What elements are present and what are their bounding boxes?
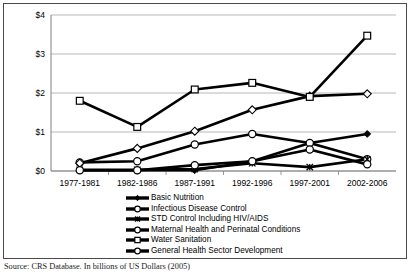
- legend-label: Water Sanitation: [150, 235, 211, 245]
- legend-label: Infectious Disease Control: [150, 204, 247, 214]
- legend-marker-asterisk-icon: [125, 214, 150, 224]
- chart-legend: Basic Nutrition Infectious Disease Contr…: [125, 193, 395, 256]
- x-axis-tick-label: 1992-1996: [232, 178, 273, 188]
- markers-maternal-health-and-perinatal-conditions: [76, 90, 372, 167]
- data-point-marker: [134, 124, 141, 131]
- legend-marker-open-circle-icon: [125, 225, 150, 235]
- legend-marker-open-square-icon: [125, 235, 150, 245]
- data-point-marker: [249, 79, 256, 86]
- legend-item-infectious-disease-control: Infectious Disease Control: [125, 204, 395, 215]
- x-axis-tick-label: 1977-1981: [59, 178, 100, 188]
- data-point-marker: [135, 248, 141, 254]
- legend-marker-filled-diamond-icon: [125, 193, 150, 203]
- series-infectious-disease-control: [80, 134, 368, 162]
- y-axis-tick-label: $2: [36, 88, 46, 98]
- data-point-marker: [306, 146, 313, 153]
- data-point-marker: [248, 106, 256, 114]
- legend-item-std-control: STD Control Including HIV/AIDS: [125, 214, 395, 225]
- legend-label: Basic Nutrition: [150, 193, 204, 203]
- x-axis-tick-label: 1987-1991: [174, 178, 215, 188]
- y-axis-tick-label: $1: [36, 127, 46, 137]
- data-point-marker: [364, 32, 371, 39]
- markers-water-sanitation: [76, 32, 370, 130]
- x-axis-tick-label: 2002-2006: [347, 178, 388, 188]
- data-point-marker: [191, 127, 199, 135]
- data-point-marker: [76, 167, 83, 174]
- legend-item-water-sanitation: Water Sanitation: [125, 235, 395, 246]
- legend-item-maternal-health: Maternal Health and Perinatal Conditions: [125, 225, 395, 236]
- x-axis-tick-label: 1997-2001: [289, 178, 330, 188]
- data-point-marker: [133, 144, 141, 152]
- x-axis-tick-label: 1982-1986: [117, 178, 158, 188]
- data-point-marker: [191, 141, 198, 148]
- legend-label: STD Control Including HIV/AIDS: [150, 214, 268, 224]
- legend-item-basic-nutrition: Basic Nutrition: [125, 193, 395, 204]
- legend-marker-open-circle-icon: [125, 246, 150, 256]
- source-note: Source: CRS Database. In billions of US …: [4, 262, 190, 271]
- data-point-marker: [249, 158, 256, 165]
- chart-figure: $0$1$2$3$41977-19811982-19861987-1991199…: [0, 0, 412, 273]
- y-axis-tick-label: $3: [36, 49, 46, 59]
- data-point-marker: [191, 86, 198, 93]
- data-point-marker: [135, 196, 140, 201]
- data-point-marker: [306, 94, 313, 101]
- data-point-marker: [135, 227, 141, 233]
- data-point-marker: [249, 130, 256, 137]
- legend-marker-open-circle-icon: [125, 204, 150, 214]
- data-point-marker: [134, 167, 141, 174]
- y-axis-tick-label: $4: [36, 10, 46, 20]
- data-point-marker: [191, 162, 198, 169]
- data-point-marker: [135, 238, 140, 243]
- legend-label: Maternal Health and Perinatal Conditions: [150, 225, 300, 235]
- legend-label: General Health Sector Development: [150, 246, 283, 256]
- series-water-sanitation: [80, 36, 368, 127]
- data-point-marker: [364, 161, 371, 168]
- y-axis-tick-label: $0: [36, 166, 46, 176]
- data-point-marker: [135, 206, 141, 212]
- data-point-marker: [76, 97, 83, 104]
- data-point-marker: [134, 158, 141, 165]
- legend-item-general-health-sector: General Health Sector Development: [125, 246, 395, 257]
- data-point-marker: [364, 131, 371, 138]
- data-point-marker: [363, 90, 371, 98]
